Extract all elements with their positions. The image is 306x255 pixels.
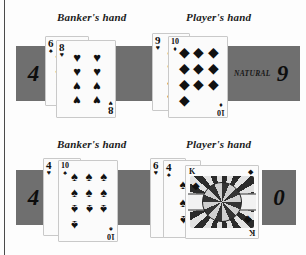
card-corner-bottom-right: 8 ♥	[108, 99, 114, 116]
card-rank: 10	[107, 232, 115, 240]
card-rank: 10	[217, 108, 225, 116]
diamond-icon: ◆	[193, 47, 204, 58]
card-banker-bottom-2: 10 ♠ 10 ♠ ♠ ♠ ♠ ♠ ♠ ♠ ♠ ♠ ♠ ♠	[58, 160, 118, 242]
card-corner-top-left: 8 ♥	[59, 42, 65, 59]
diamond-icon: ◆	[179, 79, 190, 90]
player-score-box-bottom: 0	[262, 170, 296, 225]
diamond-icon: ◆	[248, 168, 253, 176]
player-hand-label-bottom: Player's hand	[186, 138, 251, 150]
card-player-top-2: 10 ♦ 10 ♦ ◆ ◆ ◆ ◆ ◆ ◆ ◆ ◆ ◆ ◆	[168, 36, 228, 118]
spade-icon: ♠	[100, 204, 107, 214]
spade-icon: ♠	[71, 204, 78, 214]
spade-icon: ♠	[86, 204, 93, 214]
left-margin-rule	[4, 0, 5, 255]
heart-icon: ♥	[93, 67, 101, 77]
player-result-box-top: NATURAL 9	[228, 46, 300, 101]
card-rank: 8	[108, 106, 114, 116]
spade-icon: ♠	[100, 188, 107, 198]
player-hand-label-top: Player's hand	[186, 11, 251, 23]
heart-icon: ♥	[73, 53, 81, 63]
diamond-icon: ◆	[179, 47, 190, 58]
card-corner-top-left: K	[189, 168, 195, 176]
spade-icon: ♠	[86, 172, 93, 182]
heart-icon: ♥	[93, 53, 101, 63]
card-pip-grid: ◆ ◆ ◆ ◆ ◆ ◆ ◆ ◆ ◆ ◆	[177, 45, 221, 109]
banker-hand-label-bottom: Banker's hand	[57, 138, 127, 150]
card-pip-grid: ♥ ♥ ♥ ♥ ♥ ♥ ♥ ♥	[67, 51, 107, 107]
diamond-icon: ◆	[179, 63, 190, 74]
spade-icon: ♠	[86, 188, 93, 198]
face-card-portrait	[202, 182, 242, 222]
natural-label-top: NATURAL	[234, 69, 271, 78]
spade-icon: ♠	[71, 220, 78, 230]
diamond-icon: ◆	[193, 79, 204, 90]
heart-icon: ♥	[108, 99, 112, 106]
card-rank: K	[249, 228, 255, 236]
diamond-icon: ◆	[208, 79, 219, 90]
heart-icon: ♥	[60, 52, 64, 59]
banker-score-value-top: 4	[28, 62, 40, 85]
heart-icon: ♥	[73, 95, 81, 105]
diamond-icon: ◆	[193, 63, 204, 74]
heart-icon: ♥	[73, 81, 81, 91]
banker-hand-label-top: Banker's hand	[57, 11, 127, 23]
heart-icon: ♥	[73, 67, 81, 77]
spade-icon: ♠	[71, 172, 78, 182]
baccarat-hands-figure: Banker's hand Player's hand 4 6 ♠ ♠ ♠ ♠ …	[0, 0, 306, 255]
diamond-icon: ◆	[244, 213, 252, 224]
diamond-icon: ◆	[208, 47, 219, 58]
card-pip-grid: ♠ ♠ ♠ ♠ ♠ ♠ ♠ ♠ ♠ ♠	[67, 169, 111, 233]
card-banker-top-2: 8 ♥ 8 ♥ ♥ ♥ ♥ ♥ ♥ ♥ ♥ ♥	[56, 40, 116, 118]
player-score-value-top: 9	[277, 62, 289, 85]
diamond-icon: ◆	[208, 63, 219, 74]
player-score-value-bottom: 0	[273, 186, 285, 209]
spade-icon: ♠	[100, 172, 107, 182]
card-corner-bottom-right: K	[249, 228, 255, 236]
heart-icon: ♥	[93, 81, 101, 91]
card-player-bottom-3: K K ◆ ◆ ◆	[185, 165, 259, 239]
card-rank: K	[189, 168, 195, 176]
banker-score-value-bottom: 4	[28, 186, 40, 209]
spade-icon: ♠	[71, 188, 78, 198]
heart-icon: ♥	[93, 95, 101, 105]
diamond-icon: ◆	[179, 95, 190, 106]
diamond-icon: ◆	[192, 180, 200, 191]
